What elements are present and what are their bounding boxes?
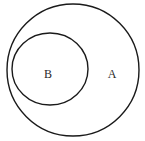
set-a-label: A xyxy=(108,67,117,81)
venn-diagram: B A xyxy=(0,0,145,141)
set-b-label: B xyxy=(44,67,52,81)
set-a-circle xyxy=(7,4,139,136)
